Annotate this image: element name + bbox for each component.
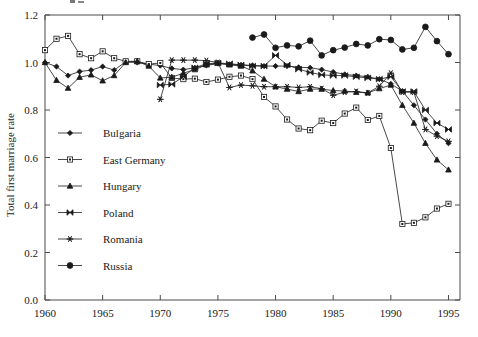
series-line — [253, 27, 449, 55]
legend-label: Hungary — [103, 180, 142, 192]
chart-container: 19601965197019751980198519901995 0.00.20… — [0, 0, 478, 337]
legend-label: Bulgaria — [103, 127, 141, 139]
data-point-filled-circle — [365, 43, 371, 49]
legend-label: East Germany — [103, 154, 166, 166]
x-tick-label: 1985 — [322, 307, 345, 319]
x-tick-label: 1970 — [149, 307, 172, 319]
legend-label: Poland — [103, 207, 134, 219]
y-tick-label: 0.4 — [24, 199, 38, 211]
data-point-triangle — [400, 102, 406, 107]
series-russia — [250, 24, 452, 58]
y-tick-label: 0.8 — [24, 104, 38, 116]
legend-item-hungary[interactable]: Hungary — [58, 180, 142, 192]
data-point-triangle — [423, 140, 429, 145]
data-point-filled-circle — [67, 263, 73, 269]
data-point-filled-circle — [423, 24, 429, 30]
data-point-diamond — [319, 67, 324, 72]
data-point-asterisk — [261, 84, 267, 90]
data-series-layer — [42, 24, 451, 227]
data-point-diamond — [308, 65, 313, 70]
legend-item-romania[interactable]: Romania — [58, 233, 143, 245]
chart-legend: BulgariaEast GermanyHungaryPolandRomania… — [58, 127, 166, 272]
data-point-open-square — [65, 33, 70, 38]
data-point-open-square — [112, 56, 117, 61]
data-point-bowtie — [445, 127, 451, 133]
data-point-asterisk — [249, 83, 255, 89]
y-tick-label: 0.2 — [24, 247, 38, 259]
data-point-open-square — [215, 77, 220, 82]
data-point-bowtie — [273, 53, 279, 59]
data-point-open-square — [284, 117, 289, 122]
y-tick-label: 0.0 — [24, 294, 38, 306]
data-point-open-square — [42, 48, 47, 53]
x-tick-label: 1965 — [92, 307, 115, 319]
data-point-diamond — [67, 130, 72, 135]
data-point-bowtie — [434, 120, 440, 126]
data-point-open-square — [423, 215, 428, 220]
data-point-filled-circle — [250, 35, 256, 41]
data-point-open-square — [192, 76, 197, 81]
data-point-asterisk — [180, 57, 186, 63]
data-point-open-square — [273, 104, 278, 109]
data-point-open-square — [250, 77, 255, 82]
legend-item-east-germany[interactable]: East Germany — [58, 154, 166, 166]
data-point-asterisk — [157, 97, 163, 103]
cropped-title-fragment — [70, 0, 84, 3]
x-tick-label: 1995 — [437, 307, 460, 319]
data-point-open-square — [434, 206, 439, 211]
data-point-filled-circle — [434, 38, 440, 44]
data-point-bowtie — [67, 210, 73, 216]
legend-label: Romania — [103, 233, 143, 245]
data-point-open-square — [89, 56, 94, 61]
data-point-open-square — [446, 201, 451, 206]
data-point-bowtie — [157, 82, 163, 88]
data-point-diamond — [273, 63, 278, 68]
data-point-asterisk — [192, 57, 198, 63]
data-point-triangle — [261, 76, 267, 81]
legend-item-poland[interactable]: Poland — [58, 207, 134, 219]
legend-item-bulgaria[interactable]: Bulgaria — [58, 127, 141, 139]
data-point-filled-circle — [284, 43, 290, 49]
legend-item-russia[interactable]: Russia — [58, 260, 132, 272]
legend-label: Russia — [103, 260, 132, 272]
data-point-open-square — [100, 49, 105, 54]
data-point-bowtie — [319, 72, 325, 78]
data-point-filled-circle — [376, 36, 382, 42]
data-point-filled-circle — [399, 47, 405, 53]
data-point-filled-circle — [353, 41, 359, 47]
data-point-open-square — [261, 94, 266, 99]
y-axis-tick-labels: 0.00.20.40.60.81.01.2 — [24, 9, 38, 306]
data-point-open-square — [365, 117, 370, 122]
data-point-open-square — [319, 118, 324, 123]
y-axis-title: Total first marriage rate — [4, 113, 16, 217]
data-point-open-square — [238, 73, 243, 78]
data-point-asterisk — [422, 127, 428, 133]
data-point-asterisk — [67, 236, 73, 242]
x-tick-label: 1975 — [207, 307, 230, 319]
x-axis-tick-labels: 19601965197019751980198519901995 — [34, 307, 460, 319]
data-point-open-square — [400, 221, 405, 226]
data-point-open-square — [377, 113, 382, 118]
data-point-filled-circle — [296, 43, 302, 49]
data-point-filled-circle — [342, 45, 348, 51]
data-point-triangle — [100, 78, 106, 83]
data-point-filled-circle — [411, 45, 417, 51]
y-tick-label: 0.6 — [24, 152, 38, 164]
data-point-triangle — [411, 120, 417, 125]
data-point-open-square — [204, 79, 209, 84]
data-point-open-square — [388, 145, 393, 150]
x-tick-label: 1990 — [380, 307, 403, 319]
y-tick-label: 1.0 — [24, 57, 38, 69]
data-point-open-square — [354, 105, 359, 110]
data-point-bowtie — [169, 82, 175, 88]
data-point-asterisk — [169, 57, 175, 63]
data-point-filled-circle — [319, 52, 325, 58]
data-point-open-square — [331, 120, 336, 125]
data-point-filled-circle — [261, 32, 267, 38]
data-point-asterisk — [238, 82, 244, 88]
data-point-open-square — [411, 220, 416, 225]
data-point-bowtie — [422, 107, 428, 113]
data-point-asterisk — [330, 93, 336, 99]
data-point-open-square — [227, 74, 232, 79]
data-point-open-square — [158, 60, 163, 65]
